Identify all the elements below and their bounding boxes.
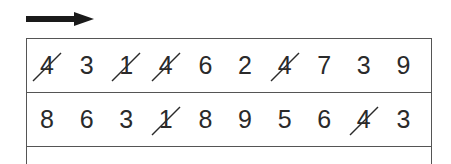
crossed-out-digit: 4 xyxy=(27,50,67,80)
digit-label: 9 xyxy=(396,51,410,79)
digit: 5 xyxy=(265,104,305,134)
digit: 9 xyxy=(383,50,423,80)
digit-label: 3 xyxy=(357,51,371,79)
digit: 8 xyxy=(27,104,67,134)
crossed-out-digit: 1 xyxy=(146,104,186,134)
grid-row-2: 8631895643 xyxy=(27,92,431,146)
digit-label: 8 xyxy=(40,105,54,133)
direction-arrow-icon xyxy=(26,12,94,26)
digit-label: 4 xyxy=(357,105,371,133)
digit-label: 1 xyxy=(159,105,173,133)
grid-bottom-line xyxy=(27,146,431,147)
digit: 6 xyxy=(304,104,344,134)
digit: 3 xyxy=(67,50,107,80)
digit-label: 1 xyxy=(119,51,133,79)
digit: 6 xyxy=(185,50,225,80)
crossed-out-digit: 1 xyxy=(106,50,146,80)
digit-label: 6 xyxy=(317,105,331,133)
digit-label: 9 xyxy=(238,105,252,133)
digit-grid: 4314624739 8631895643 xyxy=(26,38,432,164)
digit-label: 5 xyxy=(278,105,292,133)
digit-label: 3 xyxy=(119,105,133,133)
digit-label: 8 xyxy=(198,105,212,133)
digit-label: 2 xyxy=(238,51,252,79)
digit-label: 4 xyxy=(159,51,173,79)
digit-label: 6 xyxy=(198,51,212,79)
digit-label: 3 xyxy=(396,105,410,133)
digit: 6 xyxy=(67,104,107,134)
crossed-out-digit: 4 xyxy=(344,104,384,134)
crossed-out-digit: 4 xyxy=(146,50,186,80)
digit: 9 xyxy=(225,104,265,134)
digit-label: 4 xyxy=(278,51,292,79)
grid-row-1: 4314624739 xyxy=(27,38,431,92)
digit: 8 xyxy=(185,104,225,134)
digit-label: 6 xyxy=(80,105,94,133)
digit-label: 7 xyxy=(317,51,331,79)
digit: 3 xyxy=(344,50,384,80)
crossed-out-digit: 4 xyxy=(265,50,305,80)
digit: 3 xyxy=(106,104,146,134)
digit: 7 xyxy=(304,50,344,80)
digit: 2 xyxy=(225,50,265,80)
digit-label: 4 xyxy=(40,51,54,79)
digit: 3 xyxy=(383,104,423,134)
digit-label: 3 xyxy=(80,51,94,79)
